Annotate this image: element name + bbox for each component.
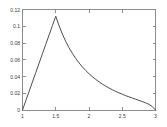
- y-tick-label: 0.08: [10, 40, 20, 46]
- figure-container: 11.522.53 00.020.040.060.080.10.12: [0, 0, 167, 127]
- x-tick-label: 2: [88, 113, 91, 119]
- y-tick-label: 0: [17, 107, 20, 113]
- x-tick-label: 1.5: [52, 113, 59, 119]
- y-tick-label: 0.02: [10, 90, 20, 96]
- chart-plot: 11.522.53 00.020.040.060.080.10.12: [0, 0, 167, 127]
- y-tick-label: 0.06: [10, 57, 20, 63]
- y-tick-label: 0.1: [13, 23, 20, 29]
- y-tick-label: 0.12: [10, 7, 20, 13]
- chart-background: [0, 0, 167, 127]
- y-tick-label: 0.04: [10, 74, 20, 80]
- x-tick-label: 1: [21, 113, 24, 119]
- x-tick-label: 3: [154, 113, 157, 119]
- x-tick-label: 2.5: [119, 113, 126, 119]
